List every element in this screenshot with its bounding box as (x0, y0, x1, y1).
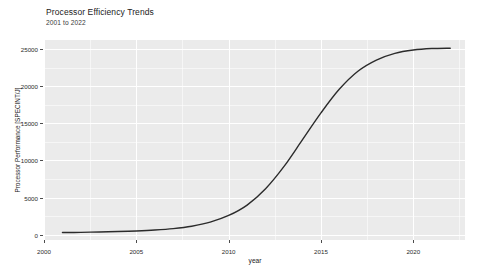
x-tick-label: 2005 (116, 248, 156, 255)
x-tick-label: 2000 (24, 248, 64, 255)
title-block: Processor Efficiency Trends 2001 to 2022 (46, 7, 466, 28)
x-tick-label: 2020 (393, 248, 433, 255)
y-tick-label: 20000 (4, 83, 38, 90)
series-line-processor-performance (62, 48, 450, 232)
x-tick-mark (321, 240, 322, 243)
x-tick-label: 2010 (209, 248, 249, 255)
y-tick-label: 10000 (4, 157, 38, 164)
x-tick-mark (136, 240, 137, 243)
y-axis-tick-labels: 0500010000150002000025000 (4, 40, 38, 240)
plot-panel (44, 40, 465, 240)
y-tick-mark (40, 160, 43, 161)
x-tick-mark (229, 240, 230, 243)
x-axis-tick-labels: 20002005201020152020 (44, 243, 465, 257)
series-line-chart (44, 40, 465, 240)
y-tick-mark (40, 198, 43, 199)
chart-subtitle: 2001 to 2022 (46, 18, 466, 28)
x-tick-mark (413, 240, 414, 243)
y-tick-mark (40, 235, 43, 236)
y-tick-label: 25000 (4, 45, 38, 52)
y-tick-mark (40, 123, 43, 124)
y-tick-mark (40, 49, 43, 50)
y-tick-mark (40, 86, 43, 87)
y-tick-label: 0 (4, 231, 38, 238)
x-axis-title: year (44, 257, 466, 264)
x-tick-label: 2015 (301, 248, 341, 255)
page-title: Processor Efficiency Trends (46, 7, 466, 18)
x-tick-mark (44, 240, 45, 243)
y-tick-label: 5000 (4, 194, 38, 201)
y-tick-label: 15000 (4, 120, 38, 127)
chart-figure: Processor Efficiency Trends 2001 to 2022… (0, 0, 481, 276)
